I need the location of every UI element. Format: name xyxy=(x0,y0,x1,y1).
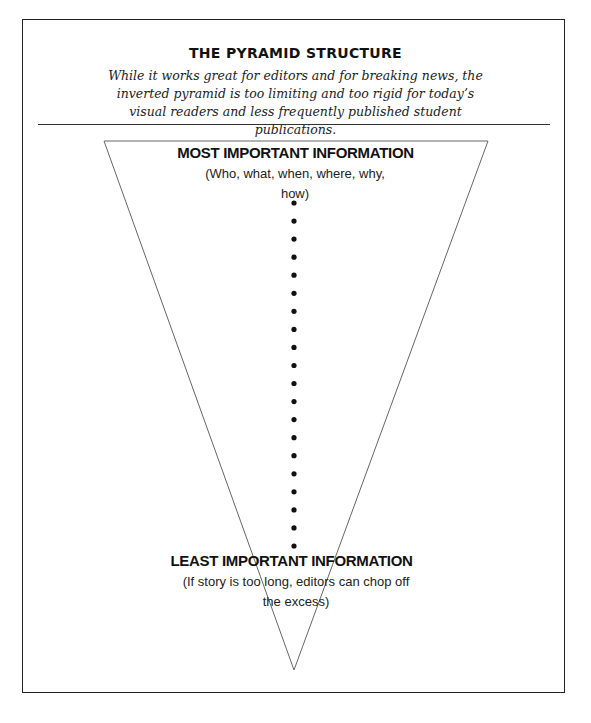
dot xyxy=(291,399,296,404)
dot xyxy=(291,471,296,476)
dot xyxy=(291,345,296,350)
dot xyxy=(291,417,296,422)
dot xyxy=(291,381,296,386)
dot xyxy=(291,363,296,368)
dot xyxy=(291,237,296,242)
dot xyxy=(291,489,296,494)
least-important-detail: (If story is too long, editors can chop … xyxy=(180,572,412,612)
dot xyxy=(291,543,296,548)
dot xyxy=(291,291,296,296)
dot xyxy=(291,219,296,224)
dot xyxy=(291,435,296,440)
most-important-detail: (Who, what, when, where, why, how) xyxy=(200,164,390,204)
dot xyxy=(291,273,296,278)
dot xyxy=(291,453,296,458)
inverted-pyramid-diagram xyxy=(0,0,591,723)
dotted-line xyxy=(291,200,296,548)
dot xyxy=(291,255,296,260)
dot xyxy=(291,507,296,512)
dot xyxy=(291,309,296,314)
least-important-label: LEAST IMPORTANT INFORMATION xyxy=(0,552,591,569)
dot xyxy=(291,525,296,530)
dot xyxy=(291,327,296,332)
most-important-label: MOST IMPORTANT INFORMATION xyxy=(0,144,591,161)
